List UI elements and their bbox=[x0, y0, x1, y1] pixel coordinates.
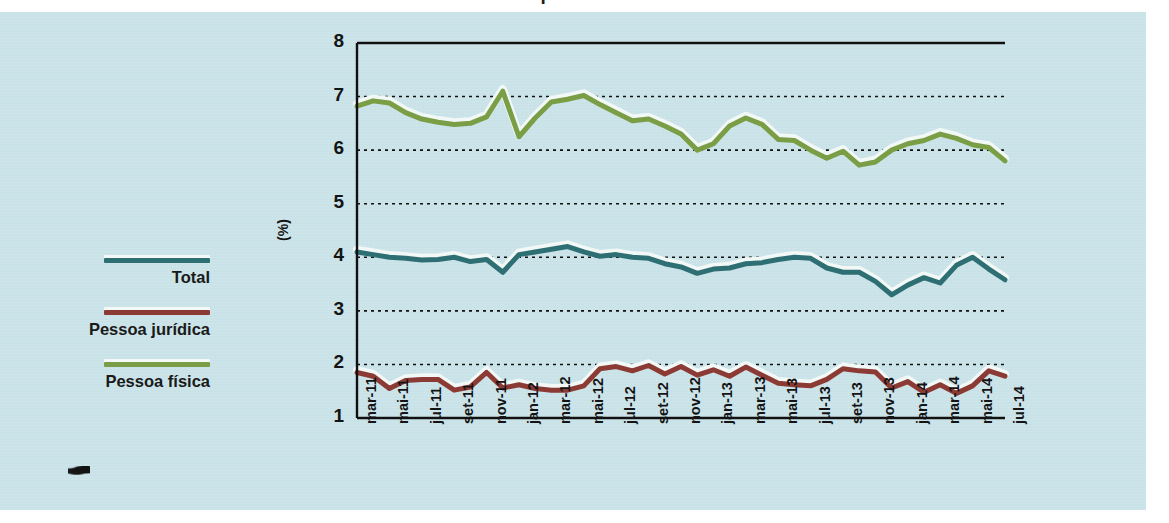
x-tick-label-jul-14: jul-14 bbox=[1011, 410, 1027, 424]
x-tick-label-mar-12: mar-12 bbox=[557, 410, 573, 424]
x-tick-label-mai-11: mai-11 bbox=[395, 410, 411, 424]
x-tick-label-nov-12: nov-12 bbox=[687, 410, 703, 424]
y-tick-label-5: 5 bbox=[318, 191, 344, 213]
x-tick-label-set-12: set-12 bbox=[655, 410, 671, 424]
data-series-layer bbox=[357, 89, 1005, 393]
x-tick-label-jul-11: jul-11 bbox=[428, 410, 444, 424]
x-tick-label-mar-11: mar-11 bbox=[363, 410, 379, 424]
x-tick-label-nov-11: nov-11 bbox=[493, 410, 509, 424]
chart-area: 87654321 (%) mar-11mai-11jul-11set-11nov… bbox=[0, 0, 1169, 523]
y-tick-label-7: 7 bbox=[318, 84, 344, 106]
x-tick-label-jan-13: jan-13 bbox=[719, 410, 735, 424]
y-tick-label-8: 8 bbox=[318, 30, 344, 52]
y-tick-label-6: 6 bbox=[318, 137, 344, 159]
x-tick-label-jan-14: jan-14 bbox=[914, 410, 930, 424]
x-tick-label-mai-13: mai-13 bbox=[784, 410, 800, 424]
y-tick-label-3: 3 bbox=[318, 298, 344, 320]
x-tick-label-mar-13: mar-13 bbox=[752, 410, 768, 424]
x-tick-label-set-11: set-11 bbox=[460, 410, 476, 424]
ink-smudge-artifact bbox=[68, 466, 90, 475]
y-tick-label-2: 2 bbox=[318, 351, 344, 373]
x-tick-label-mai-12: mai-12 bbox=[590, 410, 606, 424]
x-tick-label-mai-14: mai-14 bbox=[979, 410, 995, 424]
x-tick-label-jul-12: jul-12 bbox=[622, 410, 638, 424]
x-tick-label-nov-13: nov-13 bbox=[881, 410, 897, 424]
series-line-pessoa-jurídica[interactable] bbox=[357, 366, 1005, 394]
x-tick-label-jan-12: jan-12 bbox=[525, 410, 541, 424]
figure-root: Inadimplência do SFN Total Pessoa jurídi… bbox=[0, 0, 1169, 523]
y-axis-title: (%) bbox=[275, 219, 291, 241]
x-tick-label-mar-14: mar-14 bbox=[946, 410, 962, 424]
x-tick-label-jul-13: jul-13 bbox=[817, 410, 833, 424]
x-tick-label-set-13: set-13 bbox=[849, 410, 865, 424]
y-tick-label-4: 4 bbox=[318, 244, 344, 266]
y-tick-label-1: 1 bbox=[318, 405, 344, 427]
plot-canvas bbox=[0, 0, 1169, 523]
